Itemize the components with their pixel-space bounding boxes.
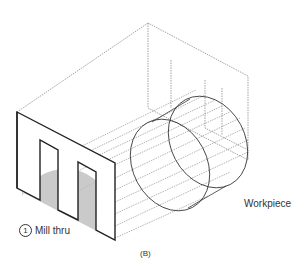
front-plate	[17, 112, 115, 240]
workpiece-cylinder	[115, 82, 263, 225]
step-number-badge: 1	[19, 224, 32, 237]
cylinder-front-ellipse	[115, 105, 225, 225]
workpiece-label: Workpiece	[244, 198, 291, 209]
slot-shading	[40, 140, 58, 210]
figure-caption: (B)	[140, 249, 151, 258]
step-label-mill-thru: 1 Mill thru	[19, 224, 70, 237]
cylinder-back-ellipse	[153, 82, 263, 202]
step-text: Mill thru	[35, 225, 70, 236]
